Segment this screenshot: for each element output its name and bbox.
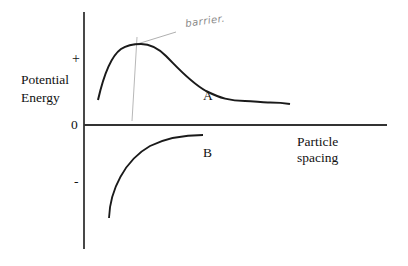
curve-a-label: A (203, 88, 213, 103)
curve-a (98, 44, 290, 104)
x-axis-label-line1: Particle (297, 134, 338, 149)
y-axis-label-line1: Potential (21, 72, 69, 87)
potential-energy-diagram (0, 0, 408, 266)
y-tick-minus: - (74, 174, 79, 189)
y-tick-zero: 0 (71, 117, 78, 132)
y-axis-label-line2: Energy (21, 90, 60, 105)
curve-b (109, 135, 203, 218)
curve-b-label: B (203, 145, 212, 160)
barrier-vertical-marker (132, 37, 137, 121)
x-axis-label-line2: spacing (297, 150, 338, 165)
y-tick-plus: + (72, 51, 80, 66)
